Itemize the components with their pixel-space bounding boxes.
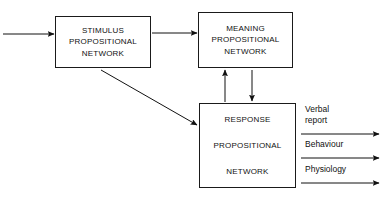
node-response-line-1: RESPONSE	[224, 107, 270, 133]
node-stimulus-line-3: NETWORK	[82, 48, 124, 60]
output-label-verbal-report: Verbal report	[305, 104, 329, 126]
node-stimulus-line-2: PROPOSITIONAL	[69, 36, 137, 48]
edge-stimulus-to-response	[101, 70, 197, 125]
node-meaning-line-2: PROPOSITIONAL	[212, 34, 280, 46]
node-response-propositional-network: RESPONSE PROPOSITIONAL NETWORK	[199, 103, 296, 188]
node-meaning-propositional-network: MEANING PROPOSITIONAL NETWORK	[198, 12, 293, 68]
node-meaning-line-3: NETWORK	[224, 46, 266, 58]
node-stimulus-line-1: STIMULUS	[82, 25, 124, 37]
output-label-physiology: Physiology	[305, 164, 346, 175]
output-label-verbal-report-line-1: Verbal	[305, 104, 329, 114]
node-response-line-3: NETWORK	[226, 159, 268, 185]
output-label-verbal-report-line-2: report	[305, 115, 327, 125]
node-response-line-2: PROPOSITIONAL	[214, 133, 282, 159]
node-meaning-line-1: MEANING	[226, 23, 265, 35]
node-stimulus-propositional-network: STIMULUS PROPOSITIONAL NETWORK	[55, 16, 151, 68]
output-label-behaviour: Behaviour	[305, 139, 343, 150]
diagram-canvas: STIMULUS PROPOSITIONAL NETWORK MEANING P…	[0, 0, 382, 201]
